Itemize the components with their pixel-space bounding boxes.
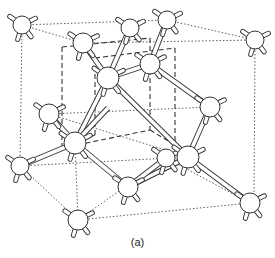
dotted-edge	[75, 143, 78, 220]
atom-left-middle	[36, 104, 63, 129]
atom-bottom-center	[115, 177, 142, 202]
dotted-edge	[20, 25, 22, 166]
atom-center-left-lower	[61, 132, 90, 159]
atom-upper-right-inner	[137, 54, 164, 79]
atom-corner-top-right	[243, 31, 269, 54]
atom-corner-top-left	[10, 16, 36, 39]
atom-inner-top-left	[70, 33, 97, 58]
dotted-edge	[83, 40, 255, 43]
dotted-edge	[254, 40, 255, 203]
atom-top-back-right	[155, 11, 181, 34]
atom-corner-bottom-front	[65, 210, 92, 235]
atom-center-upper	[94, 67, 123, 94]
atom-corner-bottom-right	[237, 193, 264, 218]
dotted-edge	[49, 107, 210, 114]
atom-top-back-middle	[118, 19, 144, 42]
atom-center-lower-right	[174, 146, 203, 173]
diamond-lattice-diagram	[0, 0, 275, 258]
atom-corner-lower-left	[8, 157, 34, 180]
figure-caption: (a)	[0, 236, 275, 248]
lattice-svg	[0, 0, 275, 258]
atoms	[8, 11, 269, 235]
dotted-edge	[78, 203, 250, 220]
atom-right-middle	[197, 97, 224, 122]
